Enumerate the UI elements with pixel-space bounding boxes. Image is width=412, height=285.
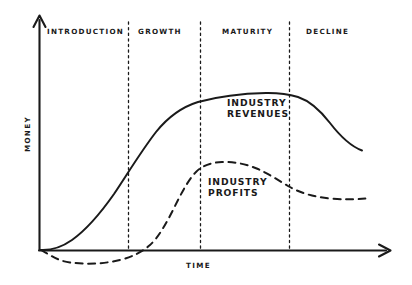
industry-revenues-label: INDUSTRY REVENUES <box>227 98 289 120</box>
industry-revenues-label-line2: REVENUES <box>227 109 289 120</box>
x-axis <box>39 245 391 257</box>
industry-profits-label: INDUSTRY PROFITS <box>208 177 268 199</box>
stage-label-growth: GROWTH <box>138 28 182 36</box>
y-axis <box>34 16 46 251</box>
industry-profits-curve <box>41 162 366 264</box>
chart-canvas <box>0 0 412 285</box>
stage-label-introduction: INTRODUCTION <box>47 28 124 36</box>
product-life-cycle-chart: INTRODUCTION GROWTH MATURITY DECLINE MON… <box>0 0 412 285</box>
industry-revenues-curve <box>41 93 362 250</box>
x-axis-label: TIME <box>186 262 211 270</box>
y-axis-label: MONEY <box>24 116 32 152</box>
stage-label-decline: DECLINE <box>306 28 349 36</box>
stage-label-maturity: MATURITY <box>222 28 273 36</box>
industry-profits-label-line2: PROFITS <box>208 188 268 199</box>
